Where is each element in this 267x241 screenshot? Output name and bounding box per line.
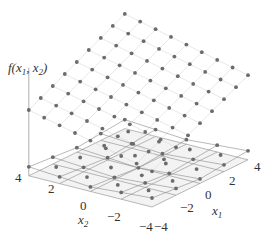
upper-gridline bbox=[200, 111, 212, 123]
lower-point bbox=[188, 148, 192, 152]
upper-point bbox=[78, 80, 82, 84]
upper-gridline bbox=[150, 69, 162, 81]
lower-point bbox=[75, 146, 79, 150]
upper-point bbox=[142, 39, 146, 43]
surface-plot-3d: f(x1, x2) 4 2 0 −2 −4 x2 −4 −2 0 2 4 x1 bbox=[0, 0, 267, 241]
lower-point bbox=[109, 166, 113, 170]
upper-gridline bbox=[53, 74, 65, 86]
upper-gridline bbox=[205, 60, 217, 72]
upper-gridline bbox=[126, 93, 138, 105]
upper-gridline bbox=[188, 123, 200, 135]
x2-tick-4: 4 bbox=[15, 170, 22, 185]
lower-point bbox=[106, 156, 110, 160]
lower-point bbox=[157, 140, 161, 144]
x2-tick-2: 2 bbox=[48, 181, 55, 196]
upper-gridline bbox=[44, 118, 59, 126]
upper-gridline bbox=[236, 75, 248, 87]
upper-point bbox=[186, 133, 190, 137]
upper-gridline bbox=[157, 108, 169, 120]
upper-gridline bbox=[197, 104, 212, 112]
upper-gridline bbox=[190, 64, 205, 72]
upper-gridline bbox=[154, 100, 169, 108]
upper-gridline bbox=[193, 72, 205, 84]
upper-gridline bbox=[132, 41, 144, 53]
upper-gridline bbox=[104, 46, 116, 58]
upper-gridline bbox=[92, 58, 104, 70]
upper-gridline bbox=[108, 77, 123, 85]
upper-point bbox=[125, 103, 129, 107]
upper-gridline bbox=[41, 86, 53, 98]
upper-point bbox=[116, 134, 120, 138]
upper-gridline bbox=[174, 57, 189, 65]
upper-gridline bbox=[120, 53, 132, 65]
upper-gridline bbox=[128, 22, 140, 34]
lower-point bbox=[147, 189, 151, 193]
upper-point bbox=[58, 123, 62, 127]
upper-gridline bbox=[202, 52, 217, 60]
upper-point bbox=[123, 12, 127, 16]
upper-gridline bbox=[186, 45, 201, 53]
lower-gridline bbox=[29, 157, 53, 167]
upper-gridline bbox=[132, 53, 147, 61]
z-axis-label: f(x1, x2) bbox=[8, 60, 47, 77]
lower-point bbox=[222, 163, 226, 167]
upper-gridline bbox=[92, 70, 107, 78]
x1-axis-label: x1 bbox=[211, 203, 222, 220]
upper-point bbox=[200, 50, 204, 54]
upper-gridline bbox=[77, 50, 89, 62]
upper-gridline bbox=[209, 80, 221, 92]
upper-gridline bbox=[101, 26, 113, 38]
upper-gridline bbox=[72, 113, 87, 121]
upper-gridline bbox=[217, 60, 232, 68]
upper-point bbox=[97, 107, 101, 111]
upper-point bbox=[215, 58, 219, 62]
upper-point bbox=[173, 55, 177, 59]
lower-point bbox=[82, 165, 86, 169]
upper-gridline bbox=[190, 52, 202, 64]
upper-point bbox=[102, 56, 106, 60]
upper-point bbox=[143, 130, 147, 134]
upper-point bbox=[162, 157, 166, 161]
upper-gridline bbox=[44, 106, 56, 118]
upper-gridline bbox=[75, 121, 87, 133]
lower-point bbox=[195, 167, 199, 171]
upper-point bbox=[179, 94, 183, 98]
upper-gridline bbox=[77, 62, 92, 70]
upper-gridline bbox=[138, 81, 150, 93]
upper-gridline bbox=[65, 74, 80, 82]
upper-point bbox=[195, 102, 199, 106]
lower-point bbox=[78, 156, 82, 160]
upper-point bbox=[90, 68, 94, 72]
upper-gridline bbox=[104, 58, 119, 66]
lower-point bbox=[164, 162, 168, 166]
upper-point bbox=[118, 63, 122, 67]
x2-tick-0: 0 bbox=[80, 198, 87, 213]
lower-point bbox=[215, 143, 219, 147]
upper-point bbox=[109, 95, 113, 99]
upper-gridline bbox=[142, 112, 157, 120]
upper-gridline bbox=[101, 38, 116, 46]
lower-point bbox=[198, 177, 202, 181]
upper-point bbox=[114, 44, 118, 48]
upper-point bbox=[161, 67, 165, 71]
upper-gridline bbox=[159, 37, 171, 49]
upper-gridline bbox=[166, 88, 181, 96]
upper-gridline bbox=[185, 104, 197, 116]
upper-gridline bbox=[147, 61, 162, 69]
upper-point bbox=[99, 36, 103, 40]
upper-gridline bbox=[96, 77, 108, 89]
upper-gridline bbox=[68, 94, 83, 102]
upper-point bbox=[231, 66, 235, 70]
lower-point bbox=[174, 187, 178, 191]
lower-point bbox=[150, 196, 154, 200]
upper-gridline bbox=[84, 101, 99, 109]
upper-gridline bbox=[147, 49, 159, 61]
upper-point bbox=[70, 111, 74, 115]
lower-point bbox=[126, 130, 130, 134]
upper-gridline bbox=[123, 73, 135, 85]
upper-point bbox=[152, 98, 156, 102]
upper-point bbox=[126, 32, 130, 36]
upper-point bbox=[130, 51, 134, 55]
upper-point bbox=[222, 97, 226, 101]
upper-gridline bbox=[65, 62, 77, 74]
